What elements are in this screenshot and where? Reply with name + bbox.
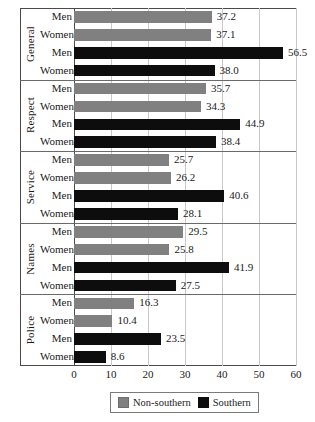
x-tick-30: 30 [170, 368, 200, 380]
bar-general-women-southern [74, 65, 215, 77]
row-label-women: Women [40, 241, 72, 259]
bar-row: Men16.3 [40, 294, 296, 312]
row-label-men: Men [40, 115, 72, 133]
bar-row: Men44.9 [40, 115, 296, 133]
bar-value-label: 37.2 [217, 8, 236, 26]
row-label-women: Women [40, 169, 72, 187]
bar-police-women-non-southern [74, 315, 112, 327]
group-label-names: Names [20, 223, 40, 295]
bar-row: Men29.5 [40, 223, 296, 241]
bar-value-label: 26.2 [176, 169, 195, 187]
bar-service-women-southern [74, 208, 178, 220]
bar-respect-women-southern [74, 136, 216, 148]
bar-row: Women37.1 [40, 26, 296, 44]
bar-value-label: 16.3 [139, 294, 158, 312]
bar-row: Women25.8 [40, 241, 296, 259]
bar-names-women-non-southern [74, 244, 169, 256]
row-label-women: Women [40, 205, 72, 223]
bar-row: Women26.2 [40, 169, 296, 187]
bar-respect-men-non-southern [74, 83, 206, 95]
legend-label-southern: Southern [213, 397, 251, 408]
bar-row: Men40.6 [40, 187, 296, 205]
row-label-men: Men [40, 187, 72, 205]
row-label-women: Women [40, 98, 72, 116]
bar-row: Men56.5 [40, 44, 296, 62]
group-label-general: General [20, 8, 40, 80]
row-label-women: Women [40, 277, 72, 295]
bar-value-label: 38.4 [221, 133, 240, 151]
bar-row: Men41.9 [40, 259, 296, 277]
x-tick-40: 40 [207, 368, 237, 380]
bar-general-women-non-southern [74, 29, 211, 41]
row-label-women: Women [40, 312, 72, 330]
bar-value-label: 29.5 [188, 223, 207, 241]
bar-police-women-southern [74, 351, 106, 363]
row-label-men: Men [40, 294, 72, 312]
bar-value-label: 41.9 [234, 259, 253, 277]
bar-names-men-non-southern [74, 226, 183, 238]
bar-service-men-non-southern [74, 154, 169, 166]
row-label-women: Women [40, 62, 72, 80]
row-label-women: Women [40, 133, 72, 151]
bar-row: Women10.4 [40, 312, 296, 330]
group-label-police: Police [20, 294, 40, 366]
group-label-respect: Respect [20, 80, 40, 152]
bar-general-men-non-southern [74, 11, 212, 23]
bar-row: Women34.3 [40, 98, 296, 116]
bar-row: Men37.2 [40, 8, 296, 26]
x-tick-20: 20 [133, 368, 163, 380]
bar-service-men-southern [74, 190, 224, 202]
bar-row: Men25.7 [40, 151, 296, 169]
bar-row: Women28.1 [40, 205, 296, 223]
row-label-men: Men [40, 80, 72, 98]
x-tick-0: 0 [59, 368, 89, 380]
legend-swatch-southern-icon [198, 397, 209, 408]
bar-value-label: 28.1 [183, 205, 202, 223]
bar-row: Women38.4 [40, 133, 296, 151]
row-label-women: Women [40, 348, 72, 366]
group-label-text: Police [24, 316, 36, 345]
bar-value-label: 37.1 [216, 26, 235, 44]
bar-service-women-non-southern [74, 172, 171, 184]
group-label-service: Service [20, 151, 40, 223]
legend-label-non-southern: Non-southern [133, 397, 191, 408]
bar-chart: GeneralRespectServiceNamesPolice Men37.2… [0, 0, 315, 422]
bar-general-men-southern [74, 47, 283, 59]
bar-police-men-non-southern [74, 298, 134, 310]
group-label-text: Service [24, 170, 36, 204]
legend-swatch-non-southern-icon [118, 397, 129, 408]
bar-row: Men23.5 [40, 330, 296, 348]
bar-value-label: 25.8 [174, 241, 193, 259]
bar-value-label: 27.5 [181, 277, 200, 295]
bar-value-label: 8.6 [111, 348, 125, 366]
row-label-women: Women [40, 26, 72, 44]
bar-value-label: 35.7 [211, 80, 230, 98]
x-tick-10: 10 [96, 368, 126, 380]
legend-item-southern: Southern [198, 397, 251, 408]
group-label-text: Names [24, 243, 36, 275]
group-label-text: Respect [24, 97, 36, 133]
x-tick-60: 60 [281, 368, 311, 380]
bar-names-women-southern [74, 280, 176, 292]
legend-item-non-southern: Non-southern [118, 397, 191, 408]
x-tick-50: 50 [244, 368, 274, 380]
bar-value-label: 38.0 [220, 62, 239, 80]
row-label-men: Men [40, 44, 72, 62]
row-label-men: Men [40, 151, 72, 169]
bar-value-label: 44.9 [245, 115, 264, 133]
bar-respect-men-southern [74, 119, 240, 131]
bar-value-label: 10.4 [117, 312, 136, 330]
bar-value-label: 40.6 [229, 187, 248, 205]
group-label-text: General [24, 26, 36, 62]
row-label-men: Men [40, 8, 72, 26]
bar-row: Men35.7 [40, 80, 296, 98]
row-label-men: Men [40, 223, 72, 241]
chart-legend: Non-southern Southern [110, 392, 259, 413]
bar-value-label: 34.3 [206, 98, 225, 116]
bar-police-men-southern [74, 333, 161, 345]
bar-respect-women-non-southern [74, 101, 201, 113]
bar-value-label: 23.5 [166, 330, 185, 348]
bar-row: Women38.0 [40, 62, 296, 80]
bar-names-men-southern [74, 262, 229, 274]
bar-row: Women8.6 [40, 348, 296, 366]
